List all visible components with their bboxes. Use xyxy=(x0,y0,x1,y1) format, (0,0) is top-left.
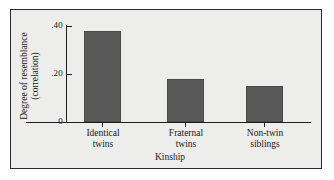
x-tick-label-non-twin-siblings: Non-twin siblings xyxy=(219,128,311,150)
x-tick-mark-non-twin-siblings xyxy=(264,123,265,127)
x-tick-mark-identical-twins xyxy=(102,123,103,127)
y-tick-mark-040 xyxy=(67,26,72,27)
y-tick-label-040: .40 xyxy=(37,21,63,30)
x-tick-label-line-1: Identical xyxy=(57,128,149,139)
x-tick-label-line-2: siblings xyxy=(219,139,311,150)
bar-identical-twins xyxy=(84,31,121,122)
x-tick-label-line-1: Non-twin xyxy=(219,128,311,139)
figure: Degree of resemblance (correlation) .40 … xyxy=(0,0,334,180)
y-tick-label-000: 0 xyxy=(37,117,63,126)
y-axis-title-line-1: Degree of resemblance xyxy=(19,17,30,135)
plot-area: Degree of resemblance (correlation) .40 … xyxy=(0,0,334,180)
x-axis-title: Kinship xyxy=(120,152,220,162)
x-axis-line xyxy=(26,122,311,123)
x-tick-label-line-2: twins xyxy=(57,139,149,150)
bar-fraternal-twins xyxy=(167,79,204,122)
y-tick-mark-020 xyxy=(67,74,72,75)
x-tick-mark-fraternal-twins xyxy=(185,123,186,127)
x-tick-label-identical-twins: Identical twins xyxy=(57,128,149,150)
bar-non-twin-siblings xyxy=(246,86,283,122)
y-tick-label-020: .20 xyxy=(37,69,63,78)
